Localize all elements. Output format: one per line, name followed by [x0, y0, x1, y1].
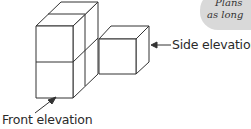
front-elevation-label: Front elevation	[2, 112, 92, 127]
side-cube-front	[99, 39, 136, 74]
side-elevation-label: Side elevation	[172, 37, 251, 52]
cube-solid-drawing	[0, 0, 251, 129]
side-arrow-head-icon	[151, 42, 157, 48]
